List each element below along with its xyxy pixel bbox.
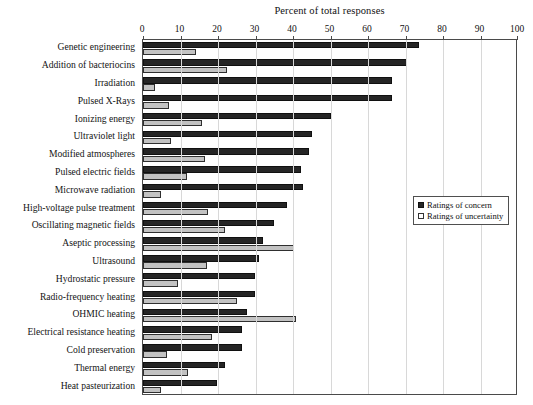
bar-concern-17 xyxy=(143,344,242,351)
category-label-5: Ultraviolet light xyxy=(0,130,135,141)
x-tick-label-30: 30 xyxy=(250,24,260,34)
category-label-2: Irradiation xyxy=(0,77,135,88)
category-label-19: Heat pasteurization xyxy=(0,380,135,391)
bar-uncertainty-15 xyxy=(143,316,296,323)
bar-uncertainty-6 xyxy=(143,156,205,163)
category-label-12: Ultrasound xyxy=(0,255,135,266)
x-tickmark-90 xyxy=(481,36,482,40)
bar-chart: Percent of total responses 0102030405060… xyxy=(0,0,533,405)
bar-uncertainty-16 xyxy=(143,334,212,341)
x-tickmark-20 xyxy=(218,36,219,40)
y-axis-category-labels: Genetic engineeringAddition of bacterioc… xyxy=(0,39,139,395)
bar-uncertainty-10 xyxy=(143,227,225,234)
category-label-10: Oscillating magnetic fields xyxy=(0,219,135,230)
gridline-10 xyxy=(181,40,182,394)
gridline-60 xyxy=(368,40,369,394)
x-tickmark-0 xyxy=(143,36,144,40)
x-tickmark-50 xyxy=(331,36,332,40)
bar-uncertainty-2 xyxy=(143,84,155,91)
x-axis-title: Percent of total responses xyxy=(142,5,517,16)
x-tick-label-70: 70 xyxy=(400,24,410,34)
category-label-11: Aseptic processing xyxy=(0,237,135,248)
bar-uncertainty-9 xyxy=(143,209,208,216)
category-label-13: Hydrostatic pressure xyxy=(0,273,135,284)
gridline-50 xyxy=(331,40,332,394)
x-tickmark-10 xyxy=(181,36,182,40)
gridline-40 xyxy=(293,40,294,394)
category-label-9: High-voltage pulse treatment xyxy=(0,202,135,213)
bar-uncertainty-3 xyxy=(143,102,169,109)
bar-uncertainty-4 xyxy=(143,120,202,127)
bar-uncertainty-13 xyxy=(143,280,178,287)
x-tickmark-70 xyxy=(406,36,407,40)
bar-concern-7 xyxy=(143,166,301,173)
bar-concern-4 xyxy=(143,113,331,120)
bar-concern-8 xyxy=(143,184,303,191)
bar-uncertainty-0 xyxy=(143,49,196,56)
x-tick-label-20: 20 xyxy=(212,24,222,34)
x-tick-label-60: 60 xyxy=(362,24,372,34)
x-tickmark-80 xyxy=(443,36,444,40)
bar-concern-6 xyxy=(143,148,309,155)
bar-uncertainty-18 xyxy=(143,369,188,376)
bar-concern-14 xyxy=(143,291,255,298)
category-label-7: Pulsed electric fields xyxy=(0,166,135,177)
category-label-3: Pulsed X-Rays xyxy=(0,95,135,106)
open-square-icon xyxy=(418,213,424,219)
gridline-70 xyxy=(406,40,407,394)
bar-uncertainty-14 xyxy=(143,298,237,305)
filled-square-icon xyxy=(418,202,424,208)
x-tick-label-90: 90 xyxy=(475,24,485,34)
bar-concern-9 xyxy=(143,202,287,209)
bar-uncertainty-17 xyxy=(143,351,167,358)
x-tickmark-60 xyxy=(368,36,369,40)
category-label-0: Genetic engineering xyxy=(0,41,135,52)
gridline-30 xyxy=(256,40,257,394)
category-label-16: Electrical resistance heating xyxy=(0,326,135,337)
chart-legend: Ratings of concern Ratings of uncertaint… xyxy=(413,196,509,225)
legend-label-concern: Ratings of concern xyxy=(427,200,492,211)
category-label-17: Cold preservation xyxy=(0,344,135,355)
category-label-4: Ionizing energy xyxy=(0,113,135,124)
x-tick-label-80: 80 xyxy=(437,24,447,34)
bar-concern-16 xyxy=(143,326,242,333)
bar-concern-11 xyxy=(143,237,263,244)
category-label-18: Thermal energy xyxy=(0,362,135,373)
category-label-1: Addition of bacteriocins xyxy=(0,59,135,70)
bar-concern-5 xyxy=(143,131,312,138)
x-tick-label-100: 100 xyxy=(510,24,524,34)
bar-uncertainty-12 xyxy=(143,262,207,269)
legend-label-uncertainty: Ratings of uncertainty xyxy=(427,211,503,222)
bar-concern-15 xyxy=(143,309,247,316)
bar-concern-12 xyxy=(143,255,259,262)
x-tick-label-10: 10 xyxy=(175,24,185,34)
x-tick-label-40: 40 xyxy=(287,24,297,34)
gridline-20 xyxy=(218,40,219,394)
x-tickmark-40 xyxy=(293,36,294,40)
category-label-15: OHMIC heating xyxy=(0,308,135,319)
bar-uncertainty-5 xyxy=(143,138,171,145)
x-tickmark-100 xyxy=(517,36,518,40)
bar-concern-13 xyxy=(143,273,255,280)
x-tick-label-50: 50 xyxy=(325,24,335,34)
bar-concern-18 xyxy=(143,362,225,369)
bar-uncertainty-8 xyxy=(143,191,161,198)
x-axis-tick-labels: 0102030405060708090100 xyxy=(0,24,533,37)
x-tick-label-0: 0 xyxy=(140,24,145,34)
x-tickmark-30 xyxy=(256,36,257,40)
category-label-14: Radio-frequency heating xyxy=(0,291,135,302)
bar-concern-0 xyxy=(143,42,419,49)
legend-item-concern: Ratings of concern xyxy=(418,200,503,211)
bar-uncertainty-19 xyxy=(143,387,161,394)
legend-item-uncertainty: Ratings of uncertainty xyxy=(418,211,503,222)
category-label-6: Modified atmospheres xyxy=(0,148,135,159)
category-label-8: Microwave radiation xyxy=(0,184,135,195)
bar-uncertainty-1 xyxy=(143,67,227,74)
